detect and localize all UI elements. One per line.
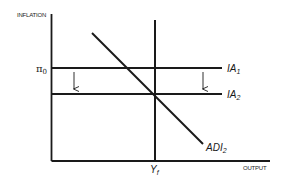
ia-adi-diagram: INFLATION OUTPUT π0 IA1 IA2 ADI2 Yf <box>0 0 285 185</box>
ia1-label: IA1 <box>227 63 240 75</box>
pi0-label: π0 <box>36 63 47 76</box>
ia2-label: IA2 <box>227 89 240 101</box>
yf-label: Yf <box>150 164 160 176</box>
y-axis-title: INFLATION <box>17 12 46 18</box>
adi2-label: ADI2 <box>205 142 227 154</box>
x-axis-title: OUTPUT <box>243 165 267 171</box>
adi2-line <box>92 33 203 144</box>
